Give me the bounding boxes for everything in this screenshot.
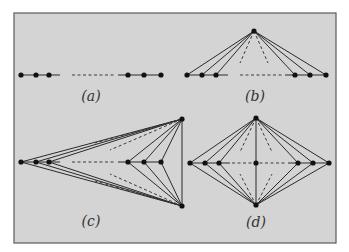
graph-node xyxy=(253,202,258,207)
graph-node xyxy=(158,159,163,164)
graph-node xyxy=(310,160,315,165)
graph-node xyxy=(46,72,51,77)
graph-node xyxy=(184,72,189,77)
graph-node xyxy=(253,115,258,120)
panel-c-label: (c) xyxy=(82,213,101,229)
graph-node xyxy=(253,160,258,165)
graph-node xyxy=(251,28,256,33)
graph-node xyxy=(179,203,184,208)
graph-node xyxy=(125,159,130,164)
graph-figure: (a) (b) (c) (d) xyxy=(0,0,349,252)
graph-node xyxy=(46,159,51,164)
graph-node xyxy=(307,72,312,77)
graph-node xyxy=(292,72,297,77)
panel-a-label: (a) xyxy=(81,88,100,104)
panel-d-label: (d) xyxy=(246,214,266,230)
graph-node xyxy=(18,72,23,77)
figure-frame xyxy=(14,13,336,243)
graph-node xyxy=(141,72,146,77)
graph-node xyxy=(213,72,218,77)
graph-node xyxy=(33,159,38,164)
graph-node xyxy=(199,72,204,77)
graph-node xyxy=(18,159,23,164)
graph-node xyxy=(125,72,130,77)
graph-node xyxy=(216,160,221,165)
graph-node xyxy=(141,159,146,164)
graph-node xyxy=(202,160,207,165)
graph-node xyxy=(295,160,300,165)
graph-node xyxy=(187,160,192,165)
graph-node xyxy=(158,72,163,77)
panel-b-label: (b) xyxy=(245,88,265,104)
graph-node xyxy=(326,160,331,165)
graph-node xyxy=(33,72,38,77)
graph-node xyxy=(179,116,184,121)
graph-node xyxy=(323,72,328,77)
